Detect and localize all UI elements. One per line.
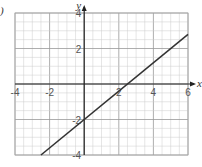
y-tick-label: -2 [72,115,81,126]
x-tick-label: 4 [151,87,157,98]
y-axis-label: y [75,0,81,11]
y-axis-arrow-icon [82,5,87,11]
x-axis-arrow-icon [190,82,196,87]
y-tick-label: 2 [76,44,82,55]
question-label: ) [0,4,4,17]
x-tick-label: -2 [45,87,54,98]
y-tick-label: -4 [72,150,81,161]
line-graph: -4-224642-2-4xy) [0,0,202,167]
x-tick-label: -4 [11,87,20,98]
x-tick-label: 6 [185,87,191,98]
x-axis-label: x [196,77,202,89]
data-line [41,34,188,155]
